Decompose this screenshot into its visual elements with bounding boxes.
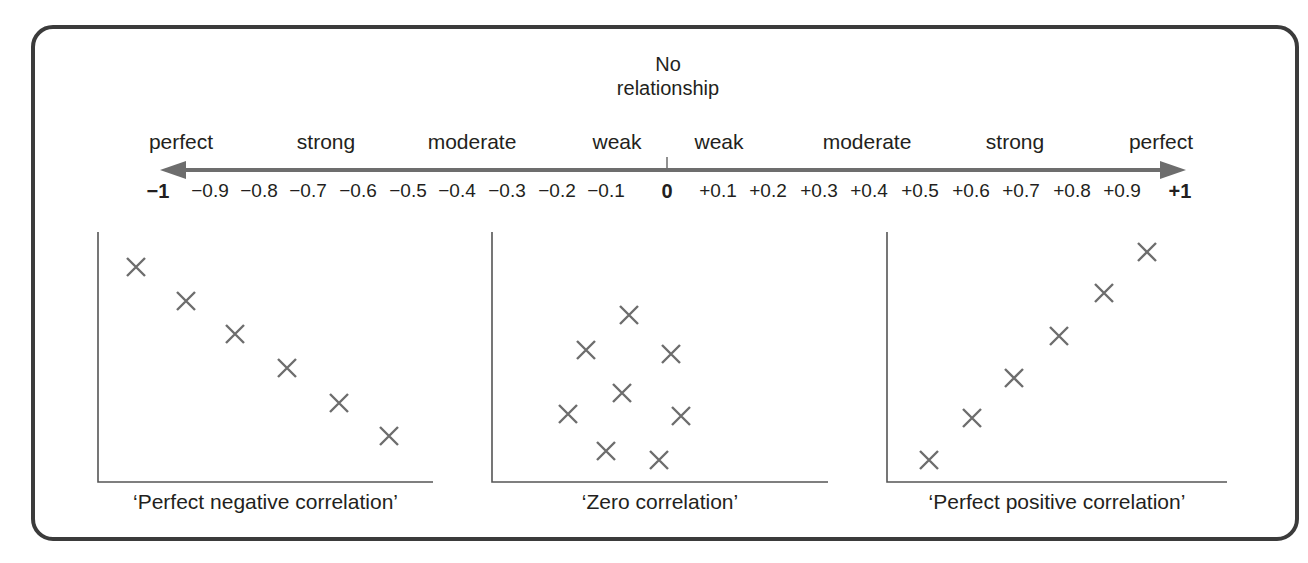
x-marker-icon [613, 384, 631, 402]
double-headed-arrow [160, 157, 1186, 179]
arrow-left-head-icon [160, 161, 186, 179]
x-marker-icon [662, 345, 680, 363]
plot-caption: ‘Perfect negative correlation’ [133, 490, 398, 514]
x-marker-icon [650, 451, 668, 469]
x-marker-icon [597, 442, 615, 460]
x-marker-icon [920, 451, 938, 469]
x-marker-icon [177, 292, 195, 310]
scale-arrow-and-plots [0, 0, 1308, 563]
x-marker-icon [380, 427, 398, 445]
x-marker-icon [963, 409, 981, 427]
scatter-plot [492, 232, 828, 482]
x-marker-icon [1050, 327, 1068, 345]
x-marker-icon [127, 258, 145, 276]
plot-caption: ‘Zero correlation’ [582, 490, 738, 514]
x-marker-icon [1138, 243, 1156, 261]
x-marker-icon [559, 405, 577, 423]
arrow-right-head-icon [1160, 161, 1186, 179]
x-marker-icon [620, 306, 638, 324]
x-marker-icon [672, 407, 690, 425]
scatter-plot [887, 232, 1227, 482]
x-marker-icon [278, 359, 296, 377]
x-marker-icon [226, 325, 244, 343]
x-marker-icon [1005, 369, 1023, 387]
plot-axes [98, 232, 433, 482]
x-marker-icon [330, 394, 348, 412]
plot-axes [492, 232, 828, 482]
plot-caption: ‘Perfect positive correlation’ [929, 490, 1186, 514]
scatter-plot [98, 232, 433, 482]
x-marker-icon [577, 341, 595, 359]
plot-axes [887, 232, 1227, 482]
x-marker-icon [1095, 284, 1113, 302]
